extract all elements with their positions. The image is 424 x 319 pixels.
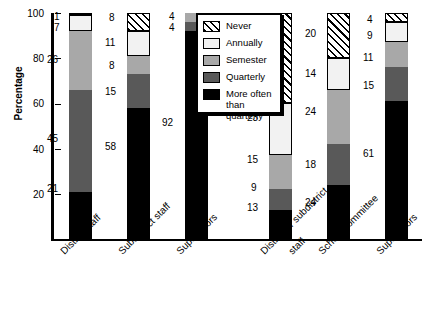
value-label-b5-quarterly: 15 xyxy=(363,81,374,91)
value-label-b0-never: 1 xyxy=(54,12,60,22)
legend-item-semester[interactable]: Semester xyxy=(203,54,267,66)
y-tick-label-80: 80 xyxy=(18,54,44,64)
value-label-b2-more: 92 xyxy=(162,118,173,128)
legend-label-annually: Annually xyxy=(226,37,262,48)
legend-item-never[interactable]: Never xyxy=(203,20,251,32)
value-label-b2-semester: 4 xyxy=(169,12,175,22)
value-label-b2-quarterly: 4 xyxy=(169,23,175,33)
legend-label-semester: Semester xyxy=(226,54,267,65)
value-label-b0-annually: 7 xyxy=(54,23,60,33)
segment-quarterly xyxy=(327,144,350,185)
value-label-b5-more: 61 xyxy=(363,149,374,159)
value-label-b1-semester: 8 xyxy=(109,61,115,71)
value-label-b4-quarterly: 18 xyxy=(305,160,316,170)
value-label-b4-annually: 14 xyxy=(305,69,316,79)
segment-annually xyxy=(127,31,150,56)
y-tick-label-40: 40 xyxy=(18,145,44,155)
value-label-b5-annually: 9 xyxy=(367,31,373,41)
legend-swatch-more-often-icon xyxy=(203,89,220,100)
legend: Never Annually Semester Quarterly More o… xyxy=(196,13,282,114)
segment-semester xyxy=(385,42,408,67)
value-label-b3-more: 13 xyxy=(247,203,258,213)
value-label-b0-semester: 26 xyxy=(47,55,58,65)
value-label-b1-more: 58 xyxy=(105,142,116,152)
y-tick-label-20: 20 xyxy=(18,190,44,200)
legend-swatch-annually-icon xyxy=(203,38,220,49)
segment-quarterly xyxy=(69,90,92,192)
legend-item-annually[interactable]: Annually xyxy=(203,37,262,49)
legend-item-quarterly[interactable]: Quarterly xyxy=(203,71,265,83)
bar-subdistrict-staff[interactable] xyxy=(127,13,150,239)
segment-annually xyxy=(385,22,408,42)
x-axis-line xyxy=(51,239,422,241)
legend-label-more-often-than-quarterly: More often than quarterly xyxy=(226,88,278,121)
legend-item-more-often-than-quarterly[interactable]: More often than quarterly xyxy=(203,88,279,121)
bar-supervisors-right[interactable] xyxy=(385,13,408,239)
segment-annually xyxy=(327,58,350,90)
value-label-b4-never: 20 xyxy=(305,29,316,39)
y-tick-label-60: 60 xyxy=(18,99,44,109)
segment-quarterly xyxy=(385,67,408,101)
segment-semester xyxy=(69,31,92,90)
segment-never xyxy=(69,13,92,15)
legend-swatch-quarterly-icon xyxy=(203,72,220,83)
legend-swatch-semester-icon xyxy=(203,55,220,66)
segment-quarterly xyxy=(269,189,292,209)
legend-label-quarterly: Quarterly xyxy=(226,71,265,82)
value-label-b1-annually: 11 xyxy=(105,38,115,48)
value-label-b3-semester: 15 xyxy=(247,155,258,165)
bar-school-committee[interactable] xyxy=(327,13,350,239)
segment-never xyxy=(385,13,408,22)
legend-swatch-never-icon xyxy=(203,21,220,32)
segment-semester xyxy=(269,155,292,189)
bar-district-staff[interactable] xyxy=(69,13,92,239)
y-tick-label-100: 100 xyxy=(18,9,44,19)
value-label-b5-semester: 11 xyxy=(363,53,373,63)
segment-never xyxy=(127,13,150,31)
value-label-b1-never: 8 xyxy=(109,13,115,23)
value-label-b4-semester: 24 xyxy=(305,107,316,117)
segment-semester xyxy=(127,56,150,74)
value-label-b3-quarterly: 9 xyxy=(251,183,257,193)
segment-quarterly xyxy=(127,74,150,108)
segment-never xyxy=(327,13,350,58)
value-label-b0-quarterly: 45 xyxy=(47,134,58,144)
segment-semester xyxy=(327,90,350,144)
legend-label-never: Never xyxy=(226,20,251,31)
stacked-bar-chart: Percentage 100 80 60 40 20 21 45 26 7 1 xyxy=(0,0,424,319)
value-label-b1-quarterly: 15 xyxy=(105,87,116,97)
value-label-b5-never: 4 xyxy=(367,15,373,25)
segment-annually xyxy=(69,15,92,31)
value-label-b0-more: 21 xyxy=(47,184,58,194)
